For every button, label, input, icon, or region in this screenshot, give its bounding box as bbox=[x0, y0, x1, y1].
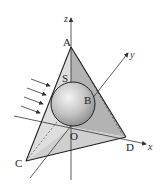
label-b: B bbox=[84, 94, 91, 106]
axis-label-x: x bbox=[147, 141, 153, 152]
ray-1 bbox=[31, 79, 50, 86]
label-o: O bbox=[70, 130, 78, 142]
label-c: C bbox=[15, 157, 22, 169]
label-s: S bbox=[62, 72, 68, 84]
axis-label-y: y bbox=[129, 49, 135, 60]
label-a: A bbox=[63, 36, 71, 48]
ray-2 bbox=[27, 88, 46, 95]
ray-3 bbox=[24, 97, 43, 104]
label-d: D bbox=[126, 141, 134, 153]
ray-4 bbox=[21, 106, 40, 113]
light-rays bbox=[21, 79, 50, 113]
diagram-canvas: A S B O C D z y x bbox=[0, 0, 166, 188]
axis-label-z: z bbox=[63, 13, 68, 24]
